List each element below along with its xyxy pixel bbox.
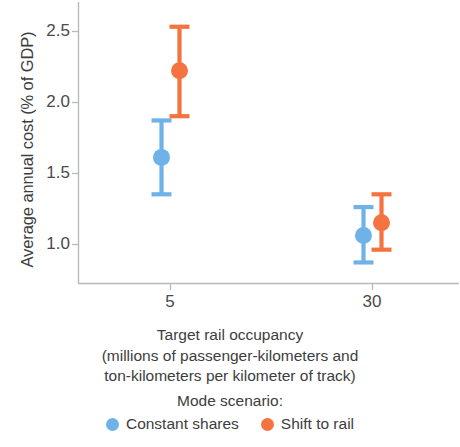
- data-series-layer: [152, 27, 392, 263]
- legend-item-shift-to-rail[interactable]: Shift to rail: [261, 415, 354, 433]
- errorbar-point: [354, 207, 374, 262]
- legend: Mode scenario: Constant shares Shift to …: [0, 392, 460, 433]
- chart-figure: Average annual cost (% of GDP) 1.0 1.5 2…: [0, 0, 460, 447]
- errorbar-point: [372, 194, 392, 249]
- x-axis-title: Target rail occupancy (millions of passe…: [0, 325, 460, 387]
- data-point-marker: [355, 227, 372, 244]
- legend-item-label: Constant shares: [126, 415, 239, 433]
- legend-swatch-icon: [106, 418, 119, 431]
- legend-items: Constant shares Shift to rail: [0, 415, 460, 433]
- data-point-marker: [153, 149, 170, 166]
- legend-item-constant-shares[interactable]: Constant shares: [106, 415, 239, 433]
- errorbar-point: [152, 120, 172, 194]
- data-point-marker: [373, 214, 390, 231]
- x-axis-title-line2: (millions of passenger-kilometers and: [0, 346, 460, 367]
- data-point-marker: [171, 62, 188, 79]
- plot-area: [0, 0, 460, 300]
- x-axis-title-line3: ton-kilometers per kilometer of track): [0, 366, 460, 387]
- legend-item-label: Shift to rail: [281, 415, 354, 433]
- x-axis-title-line1: Target rail occupancy: [0, 325, 460, 346]
- legend-swatch-icon: [261, 418, 274, 431]
- errorbar-point: [170, 27, 190, 116]
- legend-title: Mode scenario:: [0, 392, 460, 410]
